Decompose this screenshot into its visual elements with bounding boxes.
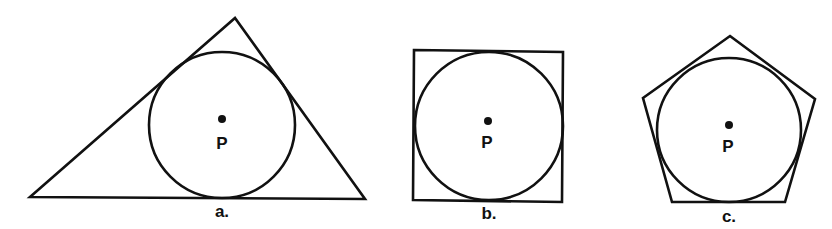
figure-b: [413, 50, 563, 202]
figure-caption: a.: [215, 202, 229, 221]
center-label: P: [722, 137, 733, 156]
center-label: P: [481, 133, 492, 152]
center-point: [484, 117, 492, 125]
inscribed-circle: [149, 52, 295, 198]
center-point: [725, 121, 733, 129]
triangle: [30, 18, 365, 199]
figure-a: [30, 18, 365, 199]
inscribed-circle: [415, 52, 563, 200]
inscribed-circles-diagram: P a. P b. P c.: [0, 0, 832, 229]
center-point: [218, 115, 226, 123]
figure-caption: c.: [722, 207, 736, 226]
pentagon: [643, 36, 815, 202]
center-label: P: [216, 134, 227, 153]
figure-c: [643, 36, 815, 202]
inscribed-circle: [657, 58, 801, 202]
figure-caption: b.: [481, 204, 496, 223]
